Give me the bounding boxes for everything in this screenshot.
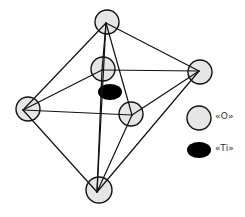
bond-line xyxy=(132,71,199,115)
legend-label-titanium: «Ti» xyxy=(215,143,234,153)
legend-symbols xyxy=(187,106,211,158)
bond-line xyxy=(106,23,199,71)
bonds-group xyxy=(23,23,199,192)
legend-oxygen-symbol xyxy=(187,106,211,130)
bond-line xyxy=(23,70,102,110)
oxygen-atom-left xyxy=(16,97,40,121)
bond-line xyxy=(23,110,97,192)
bond-line xyxy=(97,115,132,192)
legend-titanium-symbol xyxy=(187,142,211,158)
legend-label-oxygen: «O» xyxy=(215,111,234,121)
bond-line xyxy=(102,70,199,71)
atoms-group xyxy=(16,10,212,203)
octahedron-diagram xyxy=(0,0,245,217)
